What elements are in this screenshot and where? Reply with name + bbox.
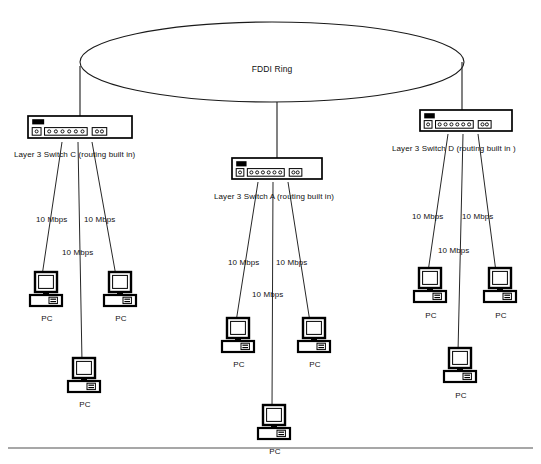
switch-c-label: Layer 3 Switch C (routing built in) bbox=[14, 150, 135, 160]
pc-a-3-label: PC bbox=[269, 447, 280, 457]
switch-d-label: Layer 3 Switch D (routing built in ) bbox=[392, 144, 516, 154]
link-switch-a-pc-a-1 bbox=[236, 182, 258, 322]
speed-label-3: 10 Mbps bbox=[228, 258, 259, 268]
pc-c-2-label: PC bbox=[115, 314, 126, 324]
fddi-ring-label: FDDI Ring bbox=[252, 64, 293, 74]
speed-label-4: 10 Mbps bbox=[276, 258, 307, 268]
pc-d-2-icon bbox=[484, 268, 516, 302]
speed-label-7: 10 Mbps bbox=[462, 212, 493, 222]
link-switch-d-pc-d-2 bbox=[478, 134, 496, 272]
pc-a-3-icon bbox=[258, 405, 290, 439]
switch-a-icon bbox=[232, 158, 322, 179]
speed-label-0: 10 Mbps bbox=[36, 215, 67, 225]
pc-a-2-icon bbox=[298, 318, 330, 352]
speed-label-8: 10 Mbps bbox=[438, 246, 469, 256]
link-switch-d-pc-d-3 bbox=[458, 134, 463, 352]
pc-c-3-label: PC bbox=[79, 400, 90, 410]
pc-c-2-icon bbox=[104, 272, 136, 306]
pc-d-1-icon bbox=[414, 268, 446, 302]
speed-label-5: 10 Mbps bbox=[252, 290, 283, 300]
pc-d-3-icon bbox=[444, 348, 476, 382]
switch-c-icon bbox=[28, 116, 132, 138]
link-switch-a-pc-a-2 bbox=[288, 182, 310, 322]
fddi-ring-shape bbox=[80, 22, 464, 102]
speed-label-1: 10 Mbps bbox=[84, 215, 115, 225]
pc-a-1-icon bbox=[222, 318, 254, 352]
switch-d-icon bbox=[420, 110, 512, 131]
speed-label-2: 10 Mbps bbox=[62, 248, 93, 258]
pc-d-3-label: PC bbox=[455, 391, 466, 401]
link-switch-c-pc-c-2 bbox=[92, 142, 116, 276]
pc-a-1-label: PC bbox=[233, 360, 244, 370]
speed-label-6: 10 Mbps bbox=[412, 212, 443, 222]
link-switch-c-pc-c-1 bbox=[42, 142, 62, 276]
switch-a-label: Layer 3 Switch A (routing built in) bbox=[214, 192, 334, 202]
pc-a-2-label: PC bbox=[309, 360, 320, 370]
pc-c-3-icon bbox=[68, 358, 100, 392]
pc-c-1-label: PC bbox=[41, 314, 52, 324]
network-diagram: FDDI Ring Layer 3 Switch C (routing buil… bbox=[0, 0, 541, 464]
pc-c-1-icon bbox=[30, 272, 62, 306]
pc-d-1-label: PC bbox=[425, 311, 436, 321]
pc-d-2-label: PC bbox=[495, 311, 506, 321]
